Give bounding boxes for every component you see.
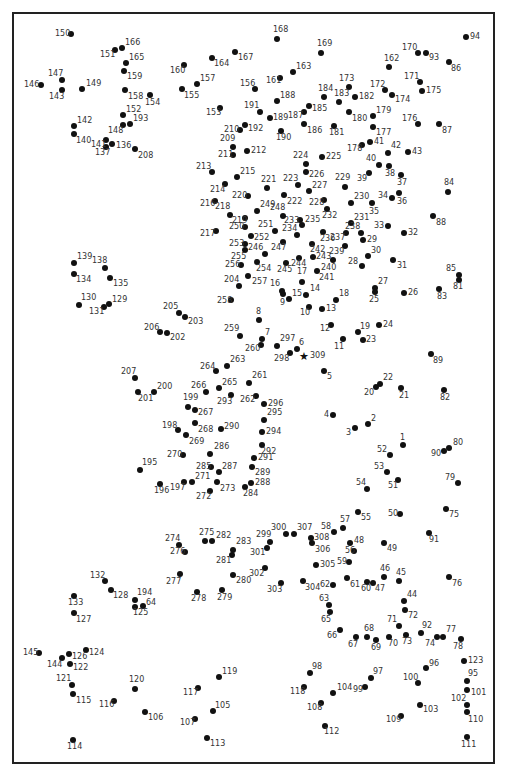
puzzle-dot[interactable] — [109, 141, 115, 147]
puzzle-dot[interactable] — [385, 150, 391, 156]
dot-number-label: 50 — [388, 510, 398, 518]
dot-number-label: 101 — [471, 689, 486, 697]
dot-number-label: 125 — [133, 609, 148, 617]
puzzle-dot[interactable] — [246, 380, 252, 386]
puzzle-dot[interactable] — [137, 467, 143, 473]
puzzle-dot[interactable] — [340, 525, 346, 531]
puzzle-dot[interactable] — [401, 290, 407, 296]
puzzle-dot[interactable] — [463, 34, 469, 40]
puzzle-dot[interactable] — [359, 263, 365, 269]
puzzle-dot[interactable] — [330, 690, 336, 696]
dot-number-label: 163 — [296, 63, 311, 71]
puzzle-dot[interactable] — [396, 190, 402, 196]
puzzle-dot[interactable] — [389, 195, 395, 201]
puzzle-dot[interactable] — [376, 322, 382, 328]
puzzle-dot[interactable] — [303, 161, 309, 167]
puzzle-dot[interactable] — [280, 213, 286, 219]
puzzle-dot[interactable] — [303, 292, 309, 298]
puzzle-dot[interactable] — [384, 469, 390, 475]
end-star-icon[interactable]: ★ — [299, 351, 309, 362]
puzzle-dot[interactable] — [386, 64, 392, 70]
puzzle-dot[interactable] — [336, 99, 342, 105]
puzzle-dot[interactable] — [318, 50, 324, 56]
dot-number-label: 198 — [162, 422, 177, 430]
puzzle-dot[interactable] — [202, 538, 208, 544]
puzzle-dot[interactable] — [367, 139, 373, 145]
puzzle-dot[interactable] — [418, 630, 424, 636]
puzzle-dot[interactable] — [381, 574, 387, 580]
dot-number-label: 38 — [385, 170, 395, 178]
puzzle-dot[interactable] — [230, 547, 236, 553]
puzzle-dot[interactable] — [364, 634, 370, 640]
dot-number-label: 284 — [243, 490, 258, 498]
puzzle-dot[interactable] — [261, 401, 267, 407]
dot-number-label: 58 — [321, 523, 331, 531]
puzzle-dot[interactable] — [330, 582, 336, 588]
puzzle-dot[interactable] — [319, 154, 325, 160]
puzzle-dot[interactable] — [319, 306, 325, 312]
puzzle-dot[interactable] — [331, 529, 337, 535]
puzzle-dot[interactable] — [299, 279, 305, 285]
puzzle-dot[interactable] — [274, 343, 280, 349]
puzzle-dot[interactable] — [279, 288, 285, 294]
puzzle-dot[interactable] — [456, 272, 462, 278]
puzzle-dot[interactable] — [248, 480, 254, 486]
puzzle-dot[interactable] — [330, 412, 336, 418]
dot-number-label: 273 — [220, 485, 235, 493]
puzzle-dot[interactable] — [342, 184, 348, 190]
dot-number-label: 258 — [217, 297, 232, 305]
puzzle-dot[interactable] — [102, 265, 108, 271]
puzzle-dot[interactable] — [185, 404, 191, 410]
puzzle-dot[interactable] — [464, 687, 470, 693]
dot-number-label: 278 — [191, 595, 206, 603]
puzzle-dot[interactable] — [261, 417, 267, 423]
puzzle-dot[interactable] — [419, 88, 425, 94]
puzzle-dot[interactable] — [244, 148, 250, 154]
puzzle-dot[interactable] — [400, 442, 406, 448]
puzzle-dot[interactable] — [321, 94, 327, 100]
puzzle-dot[interactable] — [259, 429, 265, 435]
dot-number-label: 237 — [330, 234, 345, 242]
puzzle-dot[interactable] — [360, 237, 366, 243]
puzzle-dot[interactable] — [209, 538, 215, 544]
puzzle-dot[interactable] — [76, 302, 82, 308]
puzzle-dot[interactable] — [132, 597, 138, 603]
puzzle-dot[interactable] — [237, 333, 243, 339]
puzzle-dot[interactable] — [313, 562, 319, 568]
dot-number-label: 193 — [133, 115, 148, 123]
puzzle-dot[interactable] — [405, 149, 411, 155]
puzzle-dot[interactable] — [401, 230, 407, 236]
dot-number-label: 107 — [180, 719, 195, 727]
puzzle-dot[interactable] — [132, 686, 138, 692]
puzzle-dot[interactable] — [264, 185, 270, 191]
dot-number-label: 275 — [199, 529, 214, 537]
puzzle-dot[interactable] — [455, 480, 461, 486]
dot-number-label: 159 — [127, 73, 142, 81]
puzzle-dot[interactable] — [369, 200, 375, 206]
dot-number-label: 29 — [367, 236, 377, 244]
puzzle-dot[interactable] — [207, 451, 213, 457]
puzzle-dot[interactable] — [461, 658, 467, 664]
puzzle-dot[interactable] — [274, 36, 280, 42]
puzzle-dot[interactable] — [267, 539, 273, 545]
dot-number-label: 309 — [310, 352, 325, 360]
puzzle-dot[interactable] — [352, 425, 358, 431]
puzzle-dot[interactable] — [440, 634, 446, 640]
puzzle-dot[interactable] — [245, 273, 251, 279]
puzzle-dot[interactable] — [251, 455, 257, 461]
puzzle-dot[interactable] — [390, 257, 396, 263]
dot-number-label: 115 — [76, 697, 91, 705]
dot-number-label: 22 — [383, 374, 393, 382]
puzzle-dot[interactable] — [396, 578, 402, 584]
puzzle-dot[interactable] — [445, 189, 451, 195]
puzzle-dot[interactable] — [352, 94, 358, 100]
puzzle-dot[interactable] — [464, 678, 470, 684]
dot-number-label: 293 — [217, 398, 232, 406]
puzzle-dot[interactable] — [256, 317, 262, 323]
puzzle-dot[interactable] — [441, 448, 447, 454]
puzzle-dot[interactable] — [385, 223, 391, 229]
puzzle-dot[interactable] — [79, 86, 85, 92]
puzzle-dot[interactable] — [376, 162, 382, 168]
puzzle-dot[interactable] — [387, 452, 393, 458]
puzzle-dot[interactable] — [337, 627, 343, 633]
